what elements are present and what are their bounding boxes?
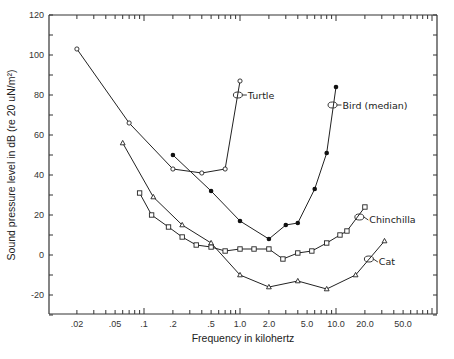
data-point xyxy=(266,284,271,288)
y-tick-label: 60 xyxy=(34,130,44,140)
x-tick-label: .2 xyxy=(169,319,177,329)
y-tick-label: 40 xyxy=(34,170,44,180)
x-tick-label: .05 xyxy=(109,319,122,329)
x-tick-label: 2.0 xyxy=(263,319,276,329)
x-tick-label: 10.0 xyxy=(327,319,345,329)
data-point xyxy=(238,79,242,83)
data-point xyxy=(382,238,387,242)
x-tick-label: .5 xyxy=(207,319,215,329)
series-line xyxy=(123,143,385,289)
data-point xyxy=(324,241,328,245)
data-point xyxy=(194,243,198,247)
x-tick-label: .1 xyxy=(140,319,148,329)
series-cat: Cat xyxy=(120,140,395,290)
data-point xyxy=(296,251,300,255)
data-point xyxy=(267,237,272,242)
data-point xyxy=(295,221,300,226)
data-point xyxy=(171,153,176,158)
data-point xyxy=(363,205,367,209)
series-label: Cat xyxy=(379,256,395,267)
data-point xyxy=(137,191,141,195)
y-tick-label: 80 xyxy=(34,90,44,100)
data-point xyxy=(166,225,170,229)
data-point xyxy=(209,245,213,249)
data-point xyxy=(149,213,153,217)
x-tick-label: 50.0 xyxy=(394,319,412,329)
data-point xyxy=(209,240,214,244)
x-tick-label: 5.0 xyxy=(301,319,314,329)
data-point xyxy=(238,219,243,224)
data-point xyxy=(238,247,242,251)
data-point xyxy=(338,233,342,237)
data-point xyxy=(310,249,314,253)
x-axis-title: Frequency in kilohertz xyxy=(192,332,295,344)
series-label: Bird (median) xyxy=(343,100,408,111)
axes: .02.05.1.2.51.02.05.010.020.050.01201008… xyxy=(29,10,437,329)
x-tick-label: 1.0 xyxy=(234,319,247,329)
data-point xyxy=(284,223,289,228)
series-line xyxy=(173,87,336,239)
label-leader-line xyxy=(364,217,369,220)
y-tick-label: 20 xyxy=(34,210,44,220)
series-label: Turtle xyxy=(247,90,275,101)
label-leader-line xyxy=(373,259,378,262)
data-point xyxy=(120,140,125,144)
y-tick-label: 120 xyxy=(29,10,44,20)
series-layer: TurtleBird (median)ChinchillaCat xyxy=(75,47,416,291)
data-point xyxy=(223,167,227,171)
data-point xyxy=(281,257,285,261)
series-label: Chinchilla xyxy=(369,214,415,225)
y-tick-label: 100 xyxy=(29,50,44,60)
y-tick-label: -20 xyxy=(31,290,44,300)
data-point xyxy=(252,247,256,251)
data-point xyxy=(200,171,204,175)
data-point xyxy=(151,194,156,198)
data-point xyxy=(127,121,131,125)
series-chinchilla: Chinchilla xyxy=(137,191,415,261)
data-point xyxy=(223,249,227,253)
data-point xyxy=(209,189,214,194)
x-tick-label: .02 xyxy=(71,319,84,329)
label-pointer-ellipse xyxy=(328,102,337,108)
x-tick-label: 20.0 xyxy=(356,319,374,329)
data-point xyxy=(180,235,184,239)
y-axis-title: Sound pressure level in dB (re 20 uN/m²) xyxy=(5,70,17,261)
data-point xyxy=(324,286,329,290)
y-tick-label: 0 xyxy=(39,250,44,260)
data-point xyxy=(75,47,79,51)
audiogram-chart: .02.05.1.2.51.02.05.010.020.050.01201008… xyxy=(0,0,454,359)
series-line xyxy=(77,49,240,173)
data-point xyxy=(324,151,329,156)
data-point xyxy=(334,85,339,90)
data-point xyxy=(345,229,349,233)
data-point xyxy=(312,187,317,192)
data-point xyxy=(295,278,300,282)
data-point xyxy=(267,247,271,251)
data-point xyxy=(171,167,175,171)
